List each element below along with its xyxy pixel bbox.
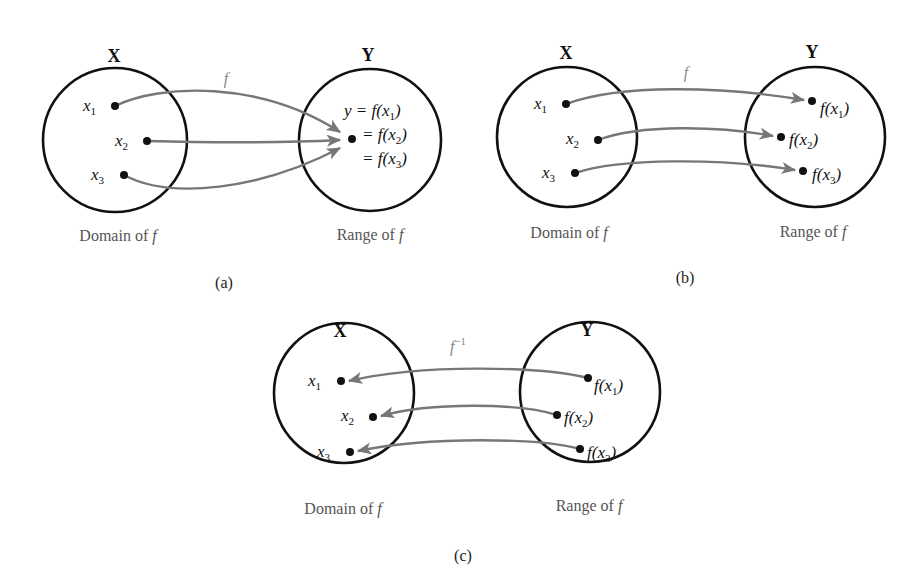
arrow-fx2-to-x2 bbox=[381, 406, 557, 416]
point-x1 bbox=[562, 100, 570, 108]
label-x3: x3 bbox=[316, 442, 331, 463]
label-x1: x1 bbox=[82, 96, 96, 117]
label-x2: x2 bbox=[340, 406, 354, 427]
panel-label-b: (b) bbox=[676, 269, 695, 287]
arrow-fx1-to-x1 bbox=[349, 369, 588, 381]
label-fx1: f(x1) bbox=[820, 99, 849, 120]
set-y-label: Y bbox=[362, 45, 375, 65]
panel-label-a: (a) bbox=[215, 274, 233, 292]
range-caption: Range of f bbox=[556, 497, 625, 515]
label-x3: x3 bbox=[90, 165, 105, 186]
label-fx3: f(x3) bbox=[812, 165, 841, 186]
map-label-f: f bbox=[224, 70, 231, 88]
point-x2 bbox=[369, 413, 377, 421]
point-y bbox=[348, 135, 356, 143]
function-mapping-figure: X Y f x1 x2 x3 y = f(x1) = f(x2) = f(x3)… bbox=[0, 0, 914, 583]
domain-caption: Domain of f bbox=[79, 227, 159, 245]
label-fx1: f(x1) bbox=[594, 376, 623, 397]
set-x-label: X bbox=[560, 43, 573, 63]
point-fx3 bbox=[799, 167, 807, 175]
domain-caption: Domain of f bbox=[530, 224, 610, 242]
set-y-label: Y bbox=[806, 42, 819, 62]
arrow-x3-to-fx3 bbox=[575, 161, 795, 173]
point-x1 bbox=[337, 377, 345, 385]
point-x1 bbox=[111, 102, 119, 110]
range-circle bbox=[520, 322, 660, 462]
label-x3: x3 bbox=[541, 163, 556, 184]
label-x1: x1 bbox=[307, 371, 321, 392]
point-fx1 bbox=[584, 374, 592, 382]
point-x3 bbox=[571, 169, 579, 177]
panel-a: X Y f x1 x2 x3 y = f(x1) = f(x2) = f(x3)… bbox=[43, 45, 441, 292]
point-fx3 bbox=[576, 445, 584, 453]
point-fx2 bbox=[777, 133, 785, 141]
label-eq-fx2: = f(x2) bbox=[362, 125, 407, 146]
label-x1: x1 bbox=[533, 94, 547, 115]
arrow-x2-to-fx2 bbox=[598, 128, 773, 140]
label-x2: x2 bbox=[565, 129, 579, 150]
arrow-x2-to-y bbox=[147, 140, 340, 142]
label-x2: x2 bbox=[114, 131, 128, 152]
point-fx1 bbox=[808, 97, 816, 105]
range-caption: Range of f bbox=[780, 223, 849, 241]
map-label-f: f bbox=[684, 64, 691, 82]
panel-label-c: (c) bbox=[454, 547, 472, 565]
point-x3 bbox=[346, 448, 354, 456]
set-x-label: X bbox=[108, 46, 121, 66]
arrow-x1-to-fx1 bbox=[566, 89, 804, 104]
point-fx2 bbox=[553, 411, 561, 419]
range-caption: Range of f bbox=[337, 226, 406, 244]
label-y-eq-fx1: y = f(x1) bbox=[342, 101, 401, 122]
map-label-f-inverse: f−1 bbox=[450, 335, 466, 356]
point-x2 bbox=[594, 136, 602, 144]
domain-caption: Domain of f bbox=[304, 500, 384, 518]
point-x3 bbox=[120, 171, 128, 179]
panel-c: X Y f−1 x1 x2 x3 f(x1) f(x2) f(x3) Domai… bbox=[274, 320, 660, 565]
label-fx2: f(x2) bbox=[564, 408, 593, 429]
domain-circle bbox=[274, 323, 414, 463]
label-eq-fx3: = f(x3) bbox=[362, 149, 407, 170]
label-fx2: f(x2) bbox=[789, 130, 818, 151]
point-x2 bbox=[143, 137, 151, 145]
label-fx3: f(x3) bbox=[587, 443, 616, 464]
arrow-x3-to-y bbox=[124, 148, 340, 189]
panel-b: X Y f x1 x2 x3 f(x1) f(x2) f(x3) Domain … bbox=[497, 42, 885, 287]
